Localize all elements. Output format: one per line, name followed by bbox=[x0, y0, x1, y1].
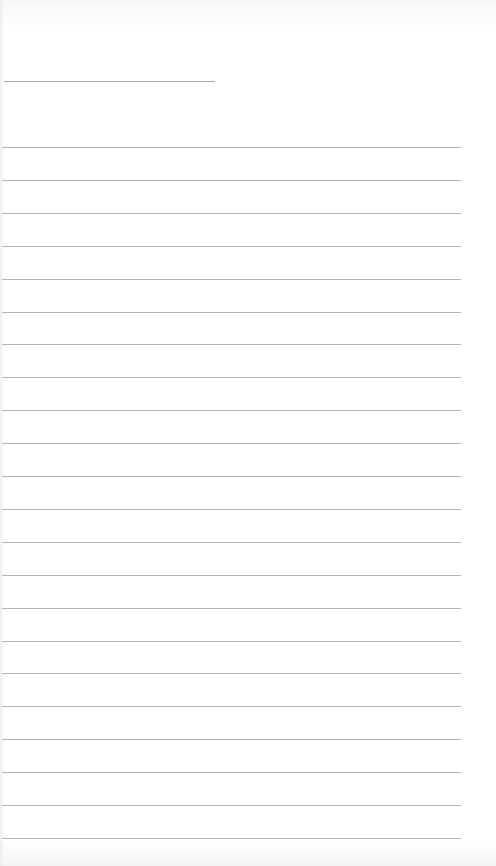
ruled-line bbox=[2, 279, 461, 280]
ruled-line bbox=[2, 772, 461, 773]
ruled-line bbox=[2, 838, 461, 839]
ruled-line bbox=[2, 476, 461, 477]
ruled-line bbox=[2, 213, 461, 214]
ruled-line bbox=[2, 312, 461, 313]
name-line bbox=[4, 81, 215, 82]
ruled-line bbox=[2, 673, 461, 674]
ruled-line bbox=[2, 443, 461, 444]
lined-paper-page bbox=[0, 0, 496, 866]
ruled-line bbox=[2, 575, 461, 576]
ruled-line bbox=[2, 246, 461, 247]
ruled-line bbox=[2, 344, 461, 345]
ruled-line bbox=[2, 147, 461, 148]
ruled-line bbox=[2, 542, 461, 543]
ruled-line bbox=[2, 608, 461, 609]
ruled-line bbox=[2, 180, 461, 181]
ruled-line bbox=[2, 509, 461, 510]
ruled-line bbox=[2, 739, 461, 740]
ruled-line bbox=[2, 377, 461, 378]
ruled-line bbox=[2, 706, 461, 707]
ruled-line bbox=[2, 641, 461, 642]
page-edge-shadow bbox=[0, 0, 4, 866]
ruled-line bbox=[2, 410, 461, 411]
ruled-line bbox=[2, 805, 461, 806]
